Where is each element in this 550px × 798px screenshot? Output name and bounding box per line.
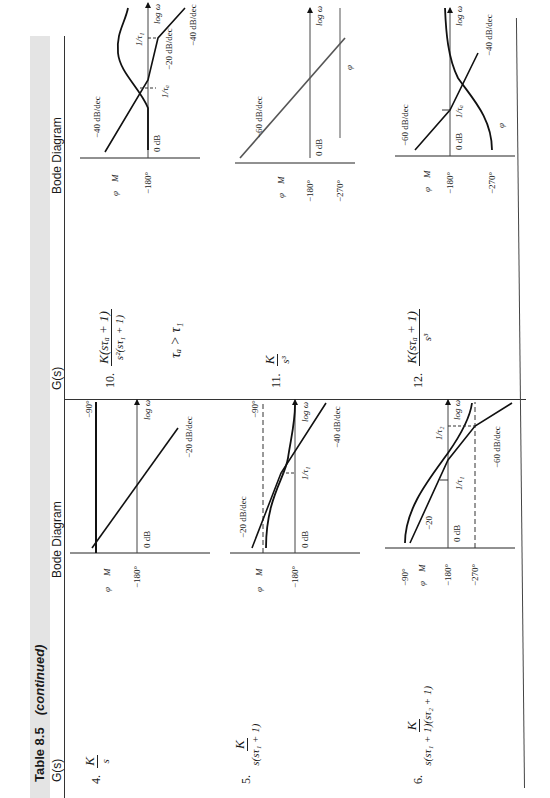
d12-breakpoint: 1/τₐ xyxy=(454,105,464,118)
d12-mag: M xyxy=(422,170,432,179)
d6-slope-1: −20 xyxy=(424,515,434,530)
d11-mag: M xyxy=(276,176,286,185)
d5-axis: log ω xyxy=(300,402,310,422)
d5-mag: M xyxy=(254,568,264,577)
d10-slope-2: −20 dB/dec xyxy=(164,28,174,70)
d12-phase-bottom: −270° xyxy=(487,171,497,194)
d6-breakpoint-1: 1/τ₁ xyxy=(454,477,464,490)
d6-phi: φ xyxy=(417,581,427,586)
d10-phase-ref: −180° xyxy=(143,171,153,194)
d11-slope: −60 dB/dec xyxy=(254,96,264,138)
bode-diagrams: −180° M φ 0 dB −90° log ω −20 dB/dec −18… xyxy=(0,0,550,798)
d4-axis: log ω xyxy=(142,400,152,420)
d6-phase-top: −90° xyxy=(400,568,410,586)
rotated-textbook-page: Table 8.5(continued) G(s) Bode Diagram G… xyxy=(0,0,550,798)
d10-breakpoint-1: 1/τ₁ xyxy=(134,33,144,46)
d5-slope-1: −20 dB/dec xyxy=(238,496,248,538)
d12-axis: log ω xyxy=(454,6,464,26)
d5-breakpoint: 1/τ₁ xyxy=(300,467,310,480)
d10-breakpoint-a: 1/τₐ xyxy=(160,85,170,98)
d10-phi: φ xyxy=(110,191,120,196)
d11-phase-level: −270° xyxy=(335,179,345,202)
d10-slope-3: −40 dB/dec xyxy=(188,4,198,46)
d12-slope-1: −60 dB/dec xyxy=(400,104,410,146)
d5-zero-db: 0 dB xyxy=(300,531,310,548)
d10-mag: M xyxy=(110,174,120,183)
bode-diagram-6: −90° M φ −180° −270° 0 dB −20 1/τ₁ 1/τ₂ … xyxy=(385,400,515,586)
d11-phi-label: φ xyxy=(344,65,354,70)
d10-axis: log ω xyxy=(152,4,162,24)
bode-diagram-10: −180° M φ 0 dB 1/τₐ 1/τ₁ −40 dB/dec −20 … xyxy=(80,3,200,196)
d6-axis: log ω xyxy=(452,400,462,420)
d5-phase-level: −90° xyxy=(250,400,260,418)
d4-phase-level: −90° xyxy=(84,400,94,418)
d5-phase-ref: −180° xyxy=(290,565,300,588)
d12-zero-db: 0 dB xyxy=(454,133,464,150)
d12-slope-2: −40 dB/dec xyxy=(484,14,494,56)
d6-phase-ref: −180° xyxy=(443,563,453,586)
bode-diagram-11: −180° −270° M φ 0 dB −60 dB/dec φ log ω xyxy=(235,6,355,202)
d4-phase-ref: −180° xyxy=(132,565,142,588)
bode-diagram-4: −180° M φ 0 dB −90° log ω −20 dB/dec xyxy=(70,400,210,592)
d5-slope-2: −40 dB/dec xyxy=(332,406,342,448)
d12-phi: φ xyxy=(422,187,432,192)
d4-mag: M xyxy=(102,568,112,577)
d6-phase-bottom: −270° xyxy=(470,563,480,586)
d12-phase-ref: −180° xyxy=(445,171,455,194)
d11-phase-ref: −180° xyxy=(305,179,315,202)
d10-zero-db: 0 dB xyxy=(152,135,162,152)
d12-phi-label: φ xyxy=(496,123,506,128)
d6-breakpoint-2: 1/τ₂ xyxy=(434,427,444,440)
d5-phi: φ xyxy=(254,587,264,592)
d6-mag: M xyxy=(417,564,427,573)
d6-zero-db: 0 dB xyxy=(452,525,462,542)
d4-phi: φ xyxy=(102,587,112,592)
d11-zero-db: 0 dB xyxy=(314,139,324,156)
d11-axis: log ω xyxy=(314,6,324,26)
bode-diagram-5: −180° M φ 0 dB 1/τ₁ −90° log ω −20 dB/de… xyxy=(230,400,360,592)
d11-phi: φ xyxy=(276,193,286,198)
d4-slope: −20 dB/dec xyxy=(184,416,194,458)
bode-diagram-12: −180° −270° M φ 0 dB 1/τₐ −60 dB/dec −40… xyxy=(395,6,515,194)
d6-slope-2: −60 dB/dec xyxy=(492,426,502,468)
d10-slope-1: −40 dB/dec xyxy=(92,96,102,138)
d4-zero-db: 0 dB xyxy=(142,531,152,548)
